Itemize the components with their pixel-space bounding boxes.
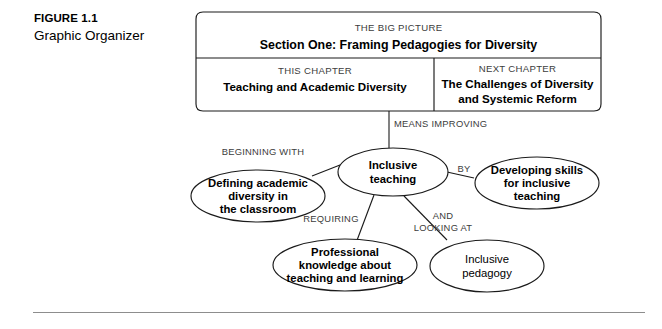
- node-inclusive-teaching-line1: Inclusive: [369, 159, 417, 171]
- next-chapter-eyebrow: NEXT CHAPTER: [479, 63, 557, 74]
- next-chapter-title-line2: and Systemic Reform: [458, 92, 577, 105]
- node-inclusive-teaching-ellipse: [338, 148, 448, 196]
- graphic-organizer-diagram: THE BIG PICTURE Section One: Framing Ped…: [0, 0, 662, 329]
- label-means-improving: MEANS IMPROVING: [394, 118, 487, 129]
- node-professional-knowledge: Professional knowledge about teaching an…: [273, 239, 417, 291]
- this-chapter-eyebrow: THIS CHAPTER: [278, 65, 352, 76]
- big-picture-title: Section One: Framing Pedagogies for Dive…: [260, 38, 538, 52]
- node-inclusive-teaching: Inclusive teaching: [338, 148, 448, 196]
- node-developing-line1: Developing skills: [491, 164, 583, 176]
- label-and-looking-at-line1: AND: [433, 210, 454, 221]
- node-developing-line2: for inclusive: [504, 177, 571, 189]
- node-inclusive-pedagogy-line2: pedagogy: [462, 267, 512, 279]
- node-professional-line1: Professional: [311, 246, 379, 258]
- node-defining-line2: diversity in: [228, 190, 288, 202]
- node-inclusive-pedagogy: Inclusive pedagogy: [430, 240, 544, 292]
- next-chapter-title-line1: The Challenges of Diversity: [441, 77, 594, 90]
- node-developing-line3: teaching: [514, 190, 561, 202]
- label-by: BY: [457, 163, 471, 174]
- big-picture-eyebrow: THE BIG PICTURE: [355, 22, 443, 33]
- link-center-to-left: [312, 165, 340, 176]
- node-professional-line2: knowledge about: [299, 259, 391, 271]
- label-requiring: REQUIRING: [303, 213, 358, 224]
- node-defining-line3: the classroom: [220, 203, 297, 215]
- node-inclusive-pedagogy-line1: Inclusive: [465, 253, 509, 265]
- label-and-looking-at-line2: LOOKING AT: [414, 222, 473, 233]
- node-inclusive-pedagogy-ellipse: [430, 240, 544, 292]
- node-professional-line3: teaching and learning: [287, 272, 404, 284]
- label-beginning-with: BEGINNING WITH: [222, 146, 305, 157]
- node-developing-skills: Developing skills for inclusive teaching: [475, 157, 599, 209]
- this-chapter-title: Teaching and Academic Diversity: [223, 80, 407, 93]
- node-defining-line1: Defining academic: [208, 177, 308, 189]
- node-inclusive-teaching-line2: teaching: [370, 173, 417, 185]
- bottom-divider-rule: [33, 312, 645, 313]
